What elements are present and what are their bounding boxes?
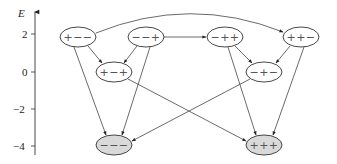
energy-axis: E 2 0 −2 −4 — [13, 7, 35, 155]
edge — [228, 47, 256, 135]
node-mmm-ground: −−− — [96, 135, 132, 155]
node-pmp: +−+ — [96, 62, 132, 82]
edge — [235, 46, 252, 63]
node-label: +−− — [63, 31, 92, 44]
edge — [276, 46, 290, 63]
tick-label: 0 — [22, 66, 28, 78]
axis-label: E — [17, 7, 25, 19]
edge — [273, 47, 304, 135]
edge-arc — [96, 14, 283, 33]
edge — [132, 79, 250, 141]
node-label: +−+ — [99, 66, 128, 79]
tick-label: −2 — [13, 103, 25, 115]
node-mpp: −++ — [207, 27, 243, 47]
node-ppp-ground: +++ — [246, 135, 282, 155]
node-label: −−− — [99, 139, 128, 152]
node-label: +++ — [249, 139, 278, 152]
tick-label: −4 — [13, 140, 25, 152]
node-mpm: −+− — [246, 62, 282, 82]
node-ppm: ++− — [283, 27, 319, 47]
node-label: ++− — [286, 31, 315, 44]
edge — [124, 46, 137, 63]
nodes: +−− −−+ −++ ++− +−+ −+− −−− +++ — [60, 27, 319, 155]
node-pmm: +−− — [60, 27, 96, 47]
node-label: −++ — [210, 31, 239, 44]
edge — [74, 47, 106, 135]
tick-label: 2 — [22, 28, 28, 40]
node-label: −−+ — [131, 31, 160, 44]
node-mmp: −−+ — [128, 27, 164, 47]
node-label: −+− — [249, 66, 278, 79]
edge — [128, 79, 246, 141]
energy-level-diagram: E 2 0 −2 −4 — [0, 0, 337, 164]
edge — [88, 46, 102, 63]
